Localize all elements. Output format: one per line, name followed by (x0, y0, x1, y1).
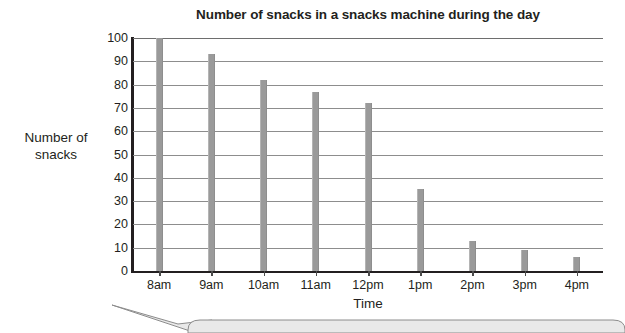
y-tick-label-0: 0 (96, 264, 128, 278)
bar-4pm (573, 257, 580, 271)
gridline-80 (133, 85, 603, 86)
x-tick-11am (316, 271, 318, 276)
y-tick-label-70: 70 (96, 101, 128, 115)
plot-area (133, 38, 603, 271)
y-axis-title: Number of snacks (8, 129, 104, 163)
callout-bubble-shape (100, 300, 625, 333)
x-tick-4pm (577, 271, 579, 276)
bar-3pm (521, 250, 528, 271)
gridline-90 (133, 61, 603, 62)
x-axis-label-1pm: 1pm (390, 278, 450, 292)
x-axis-label-8am: 8am (129, 278, 189, 292)
bar-2pm (469, 241, 476, 271)
y-tick-label-50: 50 (96, 148, 128, 162)
bar-1pm (417, 189, 424, 271)
x-axis-label-9am: 9am (181, 278, 241, 292)
x-axis-label-4pm: 4pm (547, 278, 607, 292)
y-tick-label-10: 10 (96, 241, 128, 255)
x-axis-label-10am: 10am (234, 278, 294, 292)
bar-8am (156, 38, 163, 271)
x-tick-10am (264, 271, 266, 276)
y-tick-label-40: 40 (96, 171, 128, 185)
y-tick-label-100: 100 (96, 31, 128, 45)
y-tick-label-30: 30 (96, 194, 128, 208)
bar-10am (260, 80, 267, 271)
x-tick-9am (211, 271, 213, 276)
x-tick-2pm (472, 271, 474, 276)
y-tick-label-60: 60 (96, 124, 128, 138)
x-tick-8am (159, 271, 161, 276)
y-tick-label-90: 90 (96, 54, 128, 68)
x-axis-label-12pm: 12pm (338, 278, 398, 292)
x-axis-label-3pm: 3pm (495, 278, 555, 292)
callout-body (188, 320, 625, 333)
gridline-100 (133, 38, 603, 39)
bar-12pm (365, 103, 372, 271)
x-tick-12pm (368, 271, 370, 276)
y-axis-title-line-1: Number of (8, 129, 104, 146)
y-axis-title-line-2: snacks (8, 146, 104, 163)
x-tick-1pm (420, 271, 422, 276)
x-axis-label-11am: 11am (286, 278, 346, 292)
x-tick-3pm (525, 271, 527, 276)
y-tick-label-20: 20 (96, 217, 128, 231)
y-tick-label-80: 80 (96, 78, 128, 92)
bar-9am (208, 54, 215, 271)
bar-11am (312, 92, 319, 271)
chart-title: Number of snacks in a snacks machine dur… (133, 7, 603, 22)
x-axis-label-2pm: 2pm (442, 278, 502, 292)
